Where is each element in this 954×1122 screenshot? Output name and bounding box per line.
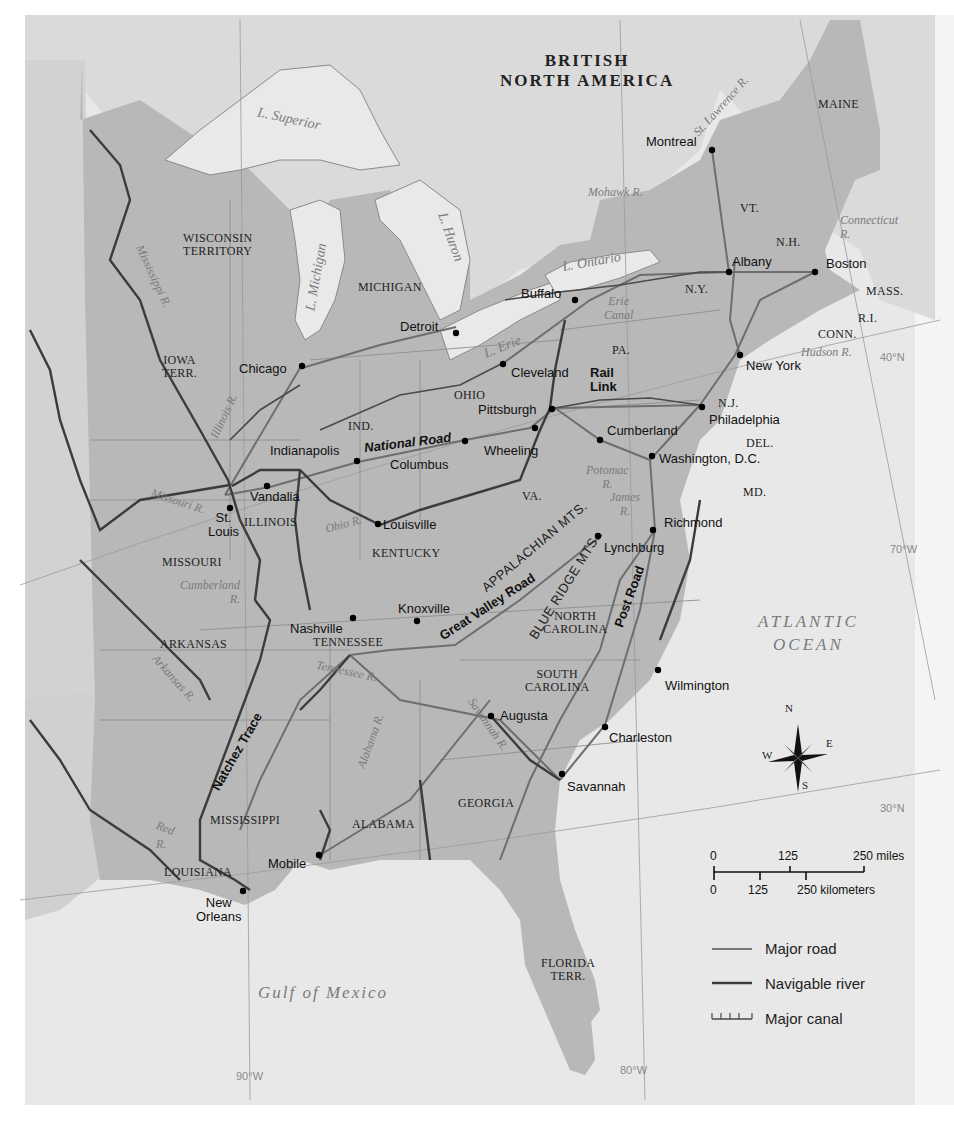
label-missouri: MISSOURI	[162, 556, 222, 568]
city-st-louis: St. Louis	[208, 511, 239, 538]
label-lon-80w: 80°W	[620, 1065, 647, 1076]
label-connecticut: CONN.	[818, 328, 857, 340]
label-mohawk-river: Mohawk R.	[588, 186, 643, 198]
label-british-north-america: BRITISH NORTH AMERICA	[500, 52, 674, 89]
label-atlantic-ocean: ATLANTIC OCEAN	[758, 613, 859, 653]
scale-miles-125: 125	[778, 850, 798, 862]
label-rail-link: Rail Link	[590, 366, 617, 393]
label-ohio: OHIO	[454, 389, 485, 401]
label-tennessee: TENNESSEE	[313, 636, 383, 648]
city-washington-dc: Washington, D.C.	[659, 452, 760, 465]
label-georgia: GEORGIA	[458, 797, 514, 809]
city-wheeling: Wheeling	[484, 444, 538, 457]
label-connecticut-river: Connecticut R.	[840, 214, 898, 240]
compass-north: N	[785, 703, 793, 714]
label-pennsylvania: PA.	[612, 344, 630, 356]
city-chicago: Chicago	[239, 362, 287, 375]
scale-miles-250: 250 miles	[853, 850, 904, 862]
label-red-river: Red R.	[156, 822, 175, 850]
label-arkansas: ARKANSAS	[160, 638, 227, 650]
label-virginia: VA.	[522, 490, 542, 502]
scale-km-0: 0	[710, 884, 717, 896]
city-cumberland: Cumberland	[607, 424, 678, 437]
label-cumberland-river: Cumberland R.	[180, 579, 240, 605]
city-lynchburg: Lynchburg	[604, 541, 664, 554]
label-kentucky: KENTUCKY	[372, 547, 440, 559]
label-vermont: VT.	[740, 202, 759, 214]
label-illinois: ILLINOIS	[244, 516, 297, 528]
legend-navigable-river: Navigable river	[765, 976, 865, 991]
city-boston: Boston	[826, 257, 866, 270]
city-montreal: Montreal	[646, 135, 697, 148]
city-knoxville: Knoxville	[398, 602, 450, 615]
label-erie-canal: Erie Canal	[604, 295, 633, 321]
label-massachusetts: MASS.	[866, 285, 903, 297]
city-richmond: Richmond	[664, 516, 723, 529]
label-lon-90w: 90°W	[236, 1071, 263, 1082]
label-gulf-of-mexico: Gulf of Mexico	[258, 984, 388, 1001]
city-cleveland: Cleveland	[511, 366, 569, 379]
city-vandalia: Vandalia	[250, 490, 300, 503]
label-wisconsin: WISCONSIN TERRITORY	[183, 232, 252, 257]
city-indianapolis: Indianapolis	[270, 444, 339, 457]
label-hudson-river: Hudson R.	[801, 346, 852, 358]
city-albany: Albany	[732, 255, 772, 268]
city-new-orleans: New Orleans	[196, 896, 242, 923]
label-lat-30n: 30°N	[880, 803, 905, 814]
compass-east: E	[826, 738, 833, 749]
label-florida: FLORIDA TERR.	[541, 957, 595, 982]
compass-west: W	[762, 750, 772, 761]
label-indiana: IND.	[348, 420, 374, 432]
city-louisville: Louisville	[383, 518, 436, 531]
label-new-york: N.Y.	[685, 283, 708, 295]
legend-major-road: Major road	[765, 941, 837, 956]
label-louisiana: LOUISIANA	[164, 866, 232, 878]
label-michigan: MICHIGAN	[358, 281, 422, 293]
city-wilmington: Wilmington	[665, 679, 729, 692]
city-philadelphia: Philadelphia	[709, 413, 780, 426]
city-columbus: Columbus	[390, 458, 449, 471]
scale-miles-0: 0	[710, 850, 717, 862]
scale-km-250: 250 kilometers	[797, 884, 875, 896]
label-maine: MAINE	[818, 98, 859, 110]
scale-km-125: 125	[748, 884, 768, 896]
city-charleston: Charleston	[609, 731, 672, 744]
label-potomac-river: Potomac R.	[586, 464, 629, 490]
label-lon-70w: 70°W	[890, 544, 917, 555]
city-pittsburgh: Pittsburgh	[478, 403, 537, 416]
city-detroit: Detroit	[400, 320, 438, 333]
city-nashville: Nashville	[290, 622, 343, 635]
label-maryland: MD.	[743, 486, 766, 498]
city-augusta: Augusta	[500, 709, 548, 722]
label-south-carolina: SOUTH CAROLINA	[525, 668, 589, 693]
label-iowa: IOWA TERR.	[162, 354, 197, 379]
city-buffalo: Buffalo	[521, 287, 561, 300]
label-mississippi: MISSISSIPPI	[210, 814, 280, 826]
label-delaware: DEL.	[746, 437, 774, 449]
label-new-jersey: N.J.	[718, 397, 739, 409]
label-lat-40n: 40°N	[880, 352, 905, 363]
city-new-york: New York	[746, 359, 801, 372]
label-james-river: James R.	[610, 491, 640, 517]
label-rhode-island: R.I.	[858, 312, 877, 324]
label-alabama: ALABAMA	[352, 818, 415, 830]
compass-south: S	[802, 780, 808, 791]
legend-major-canal: Major canal	[765, 1011, 843, 1026]
label-new-hampshire: N.H.	[776, 236, 801, 248]
city-mobile: Mobile	[268, 857, 306, 870]
city-savannah: Savannah	[567, 780, 626, 793]
